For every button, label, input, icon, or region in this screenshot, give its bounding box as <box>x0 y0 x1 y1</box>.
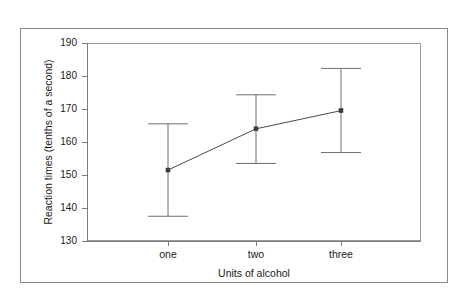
chart-canvas: 130140150160170180190 Reaction times (te… <box>0 0 469 306</box>
data-point-three <box>339 109 343 113</box>
series-line <box>168 111 341 170</box>
data-point-one <box>166 168 170 172</box>
data-point-two <box>254 127 258 131</box>
data-series <box>0 0 469 306</box>
